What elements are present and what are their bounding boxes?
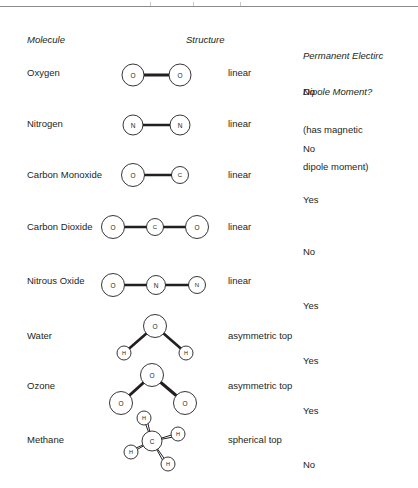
molecule-diagram-carbon-monoxide: O C — [90, 153, 220, 199]
table-row-structure: linear — [228, 169, 251, 182]
molecule-diagram-nitrogen: N N — [90, 103, 220, 147]
molecule-diagram-water: O H H — [90, 310, 220, 365]
atom-label-n1: N — [154, 282, 159, 289]
table-row-molecule: Nitrous Oxide — [27, 275, 85, 288]
dipole-line-1: Yes — [303, 194, 319, 207]
table-row-structure: asymmetric top — [228, 380, 292, 393]
atom-label-h2: H — [184, 350, 188, 356]
column-header-structure: Structure — [186, 34, 225, 46]
atom-label-h-bottom: H — [166, 461, 170, 467]
table-row-structure: spherical top — [228, 434, 282, 447]
molecule-diagram-nitrous-oxide: O N N — [90, 263, 220, 309]
molecule-diagram-oxygen: O O — [90, 52, 220, 98]
table-row-structure: linear — [228, 275, 251, 288]
atom-label-o-left: O — [118, 400, 123, 407]
atom-label-o-center: O — [149, 372, 154, 379]
atom-label-o: O — [152, 323, 157, 330]
atom-label-c: C — [150, 438, 155, 445]
dipole-line-1: No — [303, 86, 368, 99]
dipole-line-1: No — [303, 459, 315, 472]
dipole-line-1: No — [303, 143, 315, 156]
molecule-diagram-methane: C H H H H — [90, 408, 220, 480]
atom-label-o: O — [130, 172, 135, 179]
table-row-molecule: Water — [27, 330, 52, 343]
atom-label-n1: N — [131, 122, 136, 129]
atom-label-h1: H — [122, 350, 126, 356]
table-row-molecule: Ozone — [27, 380, 55, 393]
table-row-dipole: No — [303, 434, 315, 488]
atom-label-n2: N — [178, 122, 183, 129]
atom-label-h-top: H — [142, 415, 146, 421]
atom-label-o1: O — [110, 224, 115, 231]
atom-label-n2: N — [195, 282, 199, 288]
atom-label-o-right: O — [182, 400, 187, 407]
table-row-structure: linear — [228, 118, 251, 131]
table-row-molecule: Nitrogen — [27, 118, 63, 131]
top-horizontal-rule — [0, 6, 418, 7]
dipole-line-1: Yes — [303, 300, 319, 313]
table-row-molecule: Methane — [27, 434, 64, 447]
table-row-dipole: Yes — [303, 275, 319, 338]
table-row-structure: linear — [228, 67, 251, 80]
atom-label-o1: O — [130, 72, 135, 79]
table-row-molecule: Oxygen — [27, 67, 60, 80]
atom-label-h-left: H — [129, 449, 133, 455]
table-row-structure: asymmetric top — [228, 330, 292, 343]
column-header-molecule: Molecule — [27, 34, 65, 46]
table-page: Molecule Structure Permanent Electirc Di… — [0, 0, 418, 488]
table-row-molecule: Carbon Dioxide — [27, 221, 92, 234]
dipole-line-1: No — [303, 246, 315, 259]
atom-label-o: O — [110, 282, 115, 289]
atom-label-h-right: H — [176, 431, 180, 437]
table-row-structure: linear — [228, 221, 251, 234]
dipole-line-1: Yes — [303, 355, 319, 368]
atom-label-o2: O — [177, 72, 182, 79]
molecule-diagram-carbon-dioxide: O C O — [90, 205, 220, 251]
atom-label-c: C — [153, 224, 158, 230]
dipole-line-1: Yes — [303, 405, 319, 418]
atom-label-c: C — [178, 172, 183, 178]
atom-label-o2: O — [194, 224, 199, 231]
